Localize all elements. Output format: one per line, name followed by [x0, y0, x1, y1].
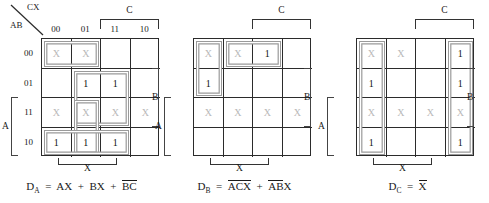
equation-sub: A: [34, 186, 39, 195]
kmap-grid: X X 1 1 1 X X X X 1 1: [356, 38, 474, 156]
equation-term-0-x-bar: X: [419, 180, 427, 193]
equation-plus-0: +: [254, 180, 266, 192]
cell-r3c0: 1: [42, 128, 72, 158]
bracket-c-label: C: [100, 5, 159, 15]
bracket-c-label: C: [415, 5, 474, 15]
cell-r3c0: [194, 128, 224, 158]
bracket-x-label: X: [210, 163, 269, 173]
cell-r2c1: X: [387, 98, 417, 128]
kmap-grid: X X 1 1 X X X X: [193, 38, 311, 156]
cell-r3c2: 1: [101, 128, 131, 158]
equation-term-0-ac-bar: AC: [228, 180, 243, 193]
bracket-c: [415, 19, 474, 29]
equation-term-2-b-bar: B: [122, 180, 129, 193]
cell-r3c1: [224, 128, 254, 158]
equation-term-0-x-bar: X: [243, 180, 251, 193]
cell-r1c1: [387, 69, 417, 99]
cell-r0c1: X: [387, 39, 417, 69]
cell-r0c0: X: [42, 39, 72, 69]
equation-var: D: [198, 180, 206, 192]
cell-r3c1: 1: [72, 128, 102, 158]
cell-r0c0: X: [194, 39, 224, 69]
cell-r0c1: X: [72, 39, 102, 69]
cell-r0c3: [131, 39, 161, 69]
cell-r3c1: [387, 128, 417, 158]
equation-term-1-ab-bar: AB: [268, 180, 283, 193]
bracket-a: [164, 97, 171, 156]
cell-r2c2: X: [416, 98, 446, 128]
cell-r0c2: [416, 39, 446, 69]
cell-r1c2: [416, 69, 446, 99]
bracket-c: [252, 19, 311, 29]
equation-plus-0: +: [75, 180, 87, 192]
bracket-c-label: C: [252, 5, 311, 15]
bracket-a-label: A: [318, 121, 325, 131]
axis-label-cx: CX: [27, 2, 40, 12]
cell-r2c1: X: [72, 98, 102, 128]
equation-term-0: AX: [56, 180, 72, 192]
equation-equals: =: [404, 180, 416, 192]
cell-r1c2: 1: [101, 69, 131, 99]
cell-r2c0: X: [357, 98, 387, 128]
equation-da: DA = AX + BX + BC: [0, 180, 163, 195]
bracket-x-label: X: [58, 163, 117, 173]
col-header-00: 00: [41, 24, 71, 34]
cell-r1c1: [224, 69, 254, 99]
cell-r1c0: [42, 69, 72, 99]
bracket-b-label: B: [467, 92, 473, 102]
equation-equals: =: [42, 180, 54, 192]
equation-term-1-x: X: [283, 180, 291, 192]
row-header-10: 10: [20, 137, 37, 147]
kmap-da: CX AB 00 01 11 10 00 01 11 10 C X X 1 1 …: [0, 0, 163, 203]
axis-label-ab: AB: [10, 20, 23, 30]
cell-r2c2: X: [101, 98, 131, 128]
bracket-b-label: B: [304, 92, 310, 102]
bracket-c: [100, 19, 159, 29]
cell-r3c3: 1: [446, 128, 476, 158]
cell-r0c3: [283, 39, 313, 69]
equation-db: DB = ACX + ABX: [163, 180, 326, 195]
equation-sub: C: [396, 186, 401, 195]
cell-r0c3: 1: [446, 39, 476, 69]
cell-r2c0: X: [42, 98, 72, 128]
cell-r0c1: X: [224, 39, 254, 69]
bracket-a: [327, 97, 334, 156]
equation-dc: DC = X: [326, 180, 489, 195]
kmap-grid: X X 1 1 X X X X 1 1 1: [41, 38, 159, 156]
cell-r1c2: [253, 69, 283, 99]
cell-r0c2: [101, 39, 131, 69]
bracket-a-label: A: [2, 121, 9, 131]
cell-r0c2: 1: [253, 39, 283, 69]
cell-r3c3: [131, 128, 161, 158]
cell-r1c0: 1: [194, 69, 224, 99]
kmap-figure: CX AB 00 01 11 10 00 01 11 10 C X X 1 1 …: [0, 0, 489, 203]
cell-r2c0: X: [194, 98, 224, 128]
cell-r3c3: [283, 128, 313, 158]
cell-r3c2: [416, 128, 446, 158]
cell-r1c1: 1: [72, 69, 102, 99]
equation-sub: B: [206, 186, 211, 195]
cell-r3c0: 1: [357, 128, 387, 158]
bracket-x-label: X: [373, 163, 432, 173]
cell-r3c2: [253, 128, 283, 158]
cell-r0c0: X: [357, 39, 387, 69]
cell-r2c2: X: [253, 98, 283, 128]
row-header-11: 11: [20, 107, 37, 117]
kmap-dc: C X X 1 1 1 X X X X 1 1 A B X DC =: [326, 0, 489, 203]
row-header-01: 01: [20, 78, 37, 88]
row-header-00: 00: [20, 48, 37, 58]
equation-equals: =: [213, 180, 225, 192]
cell-r2c1: X: [224, 98, 254, 128]
bracket-a: [11, 97, 18, 156]
cell-r1c0: 1: [357, 69, 387, 99]
equation-term-1: BX: [89, 180, 104, 192]
kmap-db: C X X 1 1 X X X X A B X DB =: [163, 0, 326, 203]
bracket-a-label: A: [155, 121, 162, 131]
bracket-b-label: B: [152, 92, 158, 102]
equation-plus-1: +: [107, 180, 119, 192]
col-header-01: 01: [71, 24, 101, 34]
equation-term-2-c-bar: C: [129, 180, 136, 193]
